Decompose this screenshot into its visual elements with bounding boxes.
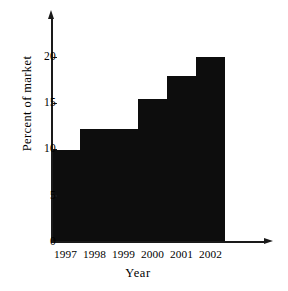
y-tick-label-0: 0 (16, 236, 56, 248)
x-tick-label-2002: 2002 (196, 248, 225, 260)
x-tick-label-1998: 1998 (80, 248, 109, 260)
bar-chart-figure: 20 15 10 5 0 1997 1998 1999 2000 2001 20… (0, 0, 288, 291)
x-tick-label-1999: 1999 (109, 248, 138, 260)
y-axis-title: Percent of market (20, 39, 35, 169)
x-tick-label-2000: 2000 (138, 248, 167, 260)
x-tick-label-2001: 2001 (167, 248, 196, 260)
x-axis-title: Year (51, 266, 225, 281)
y-tick-label-5: 5 (16, 190, 56, 202)
bar-2002 (196, 57, 225, 242)
y-axis-arrow-icon (48, 10, 54, 19)
bar-2000 (138, 99, 168, 242)
bar-1998 (80, 129, 110, 242)
x-axis-arrow-icon (264, 238, 273, 244)
x-tick-label-1997: 1997 (51, 248, 80, 260)
bar-2001 (167, 76, 197, 243)
bar-1999 (109, 129, 139, 242)
x-axis-line (51, 241, 267, 243)
